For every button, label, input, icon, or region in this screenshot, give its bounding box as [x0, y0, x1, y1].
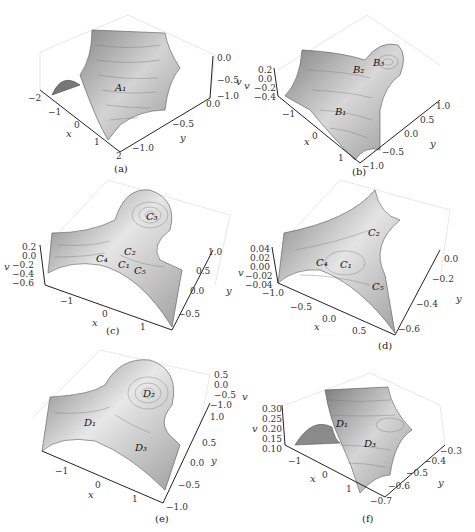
x-tick: −1 — [282, 110, 295, 119]
point-label: C₃ — [146, 211, 158, 222]
x-tick: 2 — [116, 152, 122, 161]
point-label: C₅ — [134, 265, 146, 276]
y-tick: 0.5 — [202, 439, 216, 448]
y-axis-label: y — [211, 455, 217, 466]
y-tick: 0.0 — [404, 130, 418, 139]
x-tick: −1 — [60, 297, 73, 306]
v-axis-label: v — [244, 80, 250, 91]
point-label: C₂ — [368, 227, 380, 238]
v-tick: 0.10 — [262, 445, 282, 454]
y-tick: −0.2 — [432, 275, 454, 284]
v-tick: 0.20 — [262, 425, 282, 434]
point-label: D₂ — [143, 388, 155, 399]
point-label: D₃ — [364, 438, 376, 449]
y-tick: −0.7 — [370, 497, 392, 506]
v-tick: −0.6 — [12, 279, 34, 288]
x-axis-label: x — [314, 321, 320, 332]
y-tick: −0.5 — [406, 469, 428, 478]
y-tick: 0.0 — [206, 100, 220, 109]
x-tick: 0 — [95, 481, 101, 490]
y-tick: 0.0 — [190, 459, 204, 468]
v-tick: 0.5 — [214, 371, 228, 380]
y-tick: −0.5 — [382, 148, 404, 157]
x-tick: 0 — [312, 132, 318, 141]
y-tick: −0.6 — [388, 482, 410, 491]
v-tick: 0.15 — [262, 435, 282, 444]
y-tick: −1.0 — [132, 144, 154, 153]
v-axis-label: v — [252, 423, 258, 434]
x-tick: 1 — [346, 485, 352, 494]
v-tick: 0.0 — [217, 54, 231, 63]
x-axis-label: x — [88, 489, 94, 500]
y-tick: 1.0 — [436, 102, 450, 111]
point-label: C₁ — [118, 259, 130, 270]
y-axis-label: y — [438, 477, 444, 488]
y-tick: −0.5 — [178, 481, 200, 490]
point-label: C₅ — [372, 281, 384, 292]
panel-caption: (f) — [362, 513, 374, 524]
v-tick: 0.30 — [262, 405, 282, 414]
y-axis-label: y — [456, 293, 462, 304]
x-axis-label: x — [310, 473, 316, 484]
panel-b: 0.2 0.0 −0.2 −0.4 v −1 0 1 x −1.0 −0.5 0… — [240, 0, 475, 175]
v-tick: −0.4 — [254, 93, 276, 102]
x-tick: −2 — [28, 94, 41, 103]
x-axis-label: x — [92, 317, 98, 328]
x-tick: 0 — [322, 471, 328, 480]
point-label: D₁ — [84, 417, 96, 428]
panel-e: 0.5 0.0 −0.5 −1.0 1.0 0.5 0.0 −0.5 −1.0 … — [0, 345, 240, 532]
x-tick: 0.5 — [352, 327, 366, 336]
y-axis-label: y — [430, 138, 436, 149]
y-axis-label: y — [226, 285, 232, 296]
x-tick: −1 — [55, 467, 68, 476]
x-tick: 1 — [94, 138, 100, 147]
y-tick: 0.0 — [444, 255, 458, 264]
y-tick: 0.0 — [190, 287, 204, 296]
panel-caption: (e) — [155, 513, 169, 524]
point-label: D₃ — [135, 442, 147, 453]
y-tick: −0.6 — [398, 325, 420, 334]
point-label: A₁ — [115, 82, 126, 93]
panel-f: v 0.30 0.25 0.20 v 0.15 0.10 −1 0 1 x −0… — [240, 345, 475, 532]
v-axis-label: v — [4, 261, 10, 272]
y-tick: 0.5 — [420, 116, 434, 125]
panel-caption: (a) — [114, 163, 128, 174]
y-tick: 1.0 — [208, 248, 222, 257]
panel-d: 0.04 0.02 0.00 −0.02 −0.04 v −1.0 −0.5 0… — [240, 175, 475, 345]
v-tick: −1.0 — [210, 401, 232, 410]
x-tick: 0 — [74, 121, 80, 130]
v-tick: 0.0 — [214, 381, 228, 390]
v-tick: 0.25 — [262, 415, 282, 424]
v-axis-label: v — [238, 267, 244, 278]
panel-c: 0.2 0.0 −0.2 −0.4 −0.6 v −1 0 1 x −0.5 0… — [0, 175, 240, 345]
point-label: C₄ — [96, 253, 108, 264]
point-label: C₂ — [124, 246, 136, 257]
x-tick: 1 — [132, 495, 138, 504]
point-label: B₂ — [353, 64, 364, 75]
y-tick: −1.0 — [166, 503, 188, 512]
y-tick: −0.4 — [424, 457, 446, 466]
panel-a: −2 −1 0 1 2 x −1.0 −0.5 0.0 y 0.0 −0.5 −… — [0, 0, 240, 175]
v-tick: −1.0 — [217, 92, 239, 101]
point-label: B₁ — [335, 106, 346, 117]
x-tick: 0 — [102, 310, 108, 319]
x-tick: −1 — [288, 457, 301, 466]
x-tick: 0.0 — [322, 315, 336, 324]
v-tick: −0.5 — [214, 391, 236, 400]
panel-caption: (c) — [106, 325, 119, 336]
x-tick: 1 — [338, 154, 344, 163]
point-label: B₃ — [373, 57, 384, 68]
x-tick: −0.5 — [290, 303, 312, 312]
x-axis-label: x — [66, 128, 72, 139]
y-tick: −0.3 — [440, 447, 462, 456]
v-axis-label: v — [242, 391, 248, 402]
y-tick: 0.5 — [196, 267, 210, 276]
point-label: D₁ — [336, 418, 348, 429]
surface-plot-d — [240, 175, 475, 345]
x-tick: 1 — [140, 323, 146, 332]
x-tick: −1 — [48, 108, 61, 117]
x-axis-label: x — [304, 136, 310, 147]
y-axis-label: y — [180, 132, 186, 143]
point-label: C₄ — [316, 257, 328, 268]
x-tick: −1.0 — [262, 289, 284, 298]
